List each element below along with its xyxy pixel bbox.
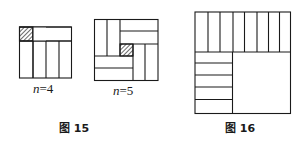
tiling-fig16	[195, 12, 291, 114]
shaded-square-n5	[120, 44, 133, 56]
figures-canvas	[0, 0, 306, 143]
shaded-square-n4	[20, 27, 34, 41]
label-n4: n=4	[33, 82, 53, 95]
tiling-n5	[95, 20, 159, 81]
caption-figure-16: 图 16	[225, 123, 255, 134]
label-n5: n=5	[113, 84, 133, 97]
label-n4-value: =4	[40, 81, 54, 96]
label-n5-value: =5	[120, 83, 134, 98]
caption-figure-15: 图 15	[59, 123, 89, 134]
